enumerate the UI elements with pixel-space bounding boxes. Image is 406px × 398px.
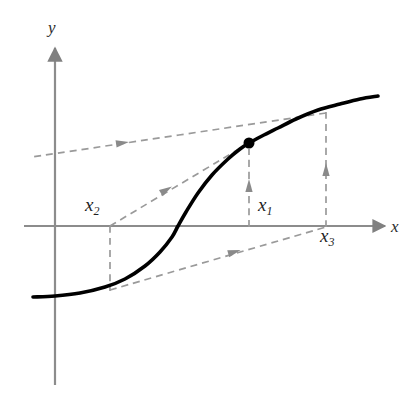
x-axis-label: x — [391, 217, 399, 237]
arrowhead-3 — [227, 250, 240, 257]
y-axis-label: y — [48, 18, 56, 38]
arrowhead-6 — [322, 163, 329, 176]
label-x3-sub: 3 — [328, 235, 334, 249]
arrowhead-1 — [116, 140, 129, 147]
label-x1-sub: 1 — [266, 204, 272, 218]
cobweb-figure: y x x1 x2 x3 — [0, 0, 406, 398]
axes-group — [24, 48, 385, 385]
dashed-line-2 — [110, 143, 249, 226]
cobweb-arrowheads — [116, 140, 330, 257]
label-x1: x1 — [258, 194, 272, 216]
arrowhead-2 — [159, 186, 172, 196]
label-x2-sub: 2 — [93, 204, 99, 218]
fixed-point-marker — [244, 138, 255, 149]
dashed-line-3 — [110, 227, 326, 290]
plot-canvas — [0, 0, 406, 398]
cobweb-dashed-lines — [32, 112, 326, 291]
label-x3: x3 — [320, 225, 334, 247]
label-x2: x2 — [85, 194, 99, 216]
arrowhead-5 — [245, 179, 252, 192]
dashed-line-1 — [32, 113, 326, 157]
